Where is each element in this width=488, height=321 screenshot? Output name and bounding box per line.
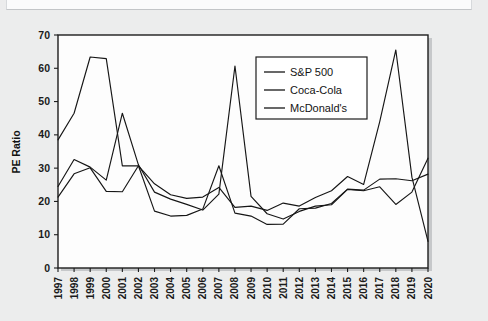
x-tick-label: 2012 <box>294 277 305 300</box>
y-tick-label: 60 <box>38 62 50 74</box>
x-tick-label: 2003 <box>149 277 160 300</box>
x-tick-label: 2013 <box>310 277 321 300</box>
x-tick-label: 2008 <box>229 277 240 300</box>
y-tick-label: 10 <box>38 228 50 240</box>
x-tick-label: 1999 <box>85 277 96 300</box>
chart-figure: 010203040506070 199719981999200020012002… <box>0 10 488 321</box>
x-tick-label: 2006 <box>197 277 208 300</box>
x-tick-label: 2005 <box>181 277 192 300</box>
legend-label-mcdonalds: McDonald's <box>290 102 348 114</box>
x-tick-label: 2015 <box>342 277 353 300</box>
x-tick-label: 2016 <box>358 277 369 300</box>
x-tick-label: 1997 <box>53 277 64 300</box>
x-tick-label: 2018 <box>390 277 401 300</box>
page-divider-rule <box>6 0 472 10</box>
x-tick-label: 2001 <box>117 277 128 300</box>
x-tick-label: 1998 <box>69 277 80 300</box>
x-tick-label: 2002 <box>133 277 144 300</box>
legend-label-coca-cola: Coca-Cola <box>290 84 343 96</box>
x-tick-label: 2004 <box>165 277 176 300</box>
x-tick-label: 2014 <box>326 277 337 300</box>
x-tick-label: 2020 <box>423 277 434 300</box>
y-tick-label: 30 <box>38 162 50 174</box>
y-tick-label: 0 <box>44 262 50 274</box>
chart-legend: S&P 500 Coca-Cola McDonald's <box>256 57 367 119</box>
x-tick-label: 2009 <box>246 277 257 300</box>
pe-ratio-line-chart: 010203040506070 199719981999200020012002… <box>0 10 488 321</box>
x-tick-label: 2000 <box>101 277 112 300</box>
x-tick-label: 2010 <box>262 277 273 300</box>
x-tick-label: 2007 <box>213 277 224 300</box>
x-tick-label: 2011 <box>278 277 289 299</box>
y-tick-label: 40 <box>38 128 50 140</box>
legend-label-sp500: S&P 500 <box>290 66 333 78</box>
y-tick-label: 50 <box>38 95 50 107</box>
x-tick-label: 2017 <box>374 277 385 300</box>
y-tick-label: 20 <box>38 195 50 207</box>
y-axis-ticks: 010203040506070 <box>38 29 58 274</box>
y-tick-label: 70 <box>38 29 50 41</box>
x-tick-label: 2019 <box>406 277 417 300</box>
x-axis-ticks: 1997199819992000200120022003200420052006… <box>53 268 434 299</box>
y-axis-title: PE Ratio <box>10 130 22 173</box>
